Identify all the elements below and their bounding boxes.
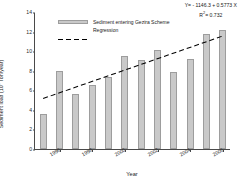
regression-r-squared: R2= 0.732 xyxy=(185,10,237,19)
x-axis-tick-label: 1996 xyxy=(49,147,61,157)
x-axis-tick-label: 1998 xyxy=(81,147,93,157)
plot-area: 02468101214 199619982000200220042006 Sed… xyxy=(34,13,230,150)
sediment-load-bar-chart: 02468101214 199619982000200220042006 Sed… xyxy=(0,0,243,187)
y-axis-title-prefix: Sediment load (10 xyxy=(0,85,4,128)
bar xyxy=(138,60,145,149)
dashed-line-icon xyxy=(58,37,88,42)
bar xyxy=(56,71,63,149)
bar xyxy=(89,85,96,149)
y-axis-title: Sediment load (106 Ton/year) xyxy=(0,34,5,154)
bar xyxy=(170,72,177,149)
y-axis-title-suffix: Ton/year) xyxy=(0,59,4,82)
bar xyxy=(203,34,210,149)
x-axis-tick-label: 2000 xyxy=(114,147,126,157)
bar xyxy=(121,56,128,149)
legend-bar-swatch xyxy=(58,20,88,25)
x-axis-tick-label: 2006 xyxy=(212,147,224,157)
bar xyxy=(72,94,79,149)
legend-item-regression: Regression xyxy=(58,26,169,34)
legend-line-swatch xyxy=(58,28,88,33)
y-axis-tick-mark xyxy=(33,71,36,72)
regression-line-segment xyxy=(43,36,222,98)
chart-legend: Sediment entering Gezira Scheme Regressi… xyxy=(58,18,169,34)
y-axis-tick-mark xyxy=(33,52,36,53)
legend-item-sediment: Sediment entering Gezira Scheme xyxy=(58,18,169,26)
y-axis-tick-mark xyxy=(33,13,36,14)
bar xyxy=(219,30,226,149)
x-axis-tick-label: 2004 xyxy=(179,147,191,157)
y-axis-tick-mark xyxy=(33,91,36,92)
legend-item-label: Regression xyxy=(93,28,118,33)
y-axis-tick-mark xyxy=(33,32,36,33)
bar xyxy=(154,50,161,149)
bar xyxy=(40,114,47,149)
regression-equation: Y= - 1146.3 + 0.5773 X xyxy=(185,2,237,10)
bar xyxy=(187,59,194,149)
y-axis-tick-mark xyxy=(33,110,36,111)
y-axis-tick-mark xyxy=(33,130,36,131)
regression-annotation: Y= - 1146.3 + 0.5773 X R2= 0.732 xyxy=(185,2,237,19)
x-axis-title: Year xyxy=(34,172,230,178)
x-axis-tick-label: 2002 xyxy=(147,147,159,157)
legend-item-label: Sediment entering Gezira Scheme xyxy=(93,20,169,25)
r-squared-value: = 0.732 xyxy=(205,11,222,17)
y-axis-tick-mark xyxy=(33,150,36,151)
bar xyxy=(105,77,112,149)
